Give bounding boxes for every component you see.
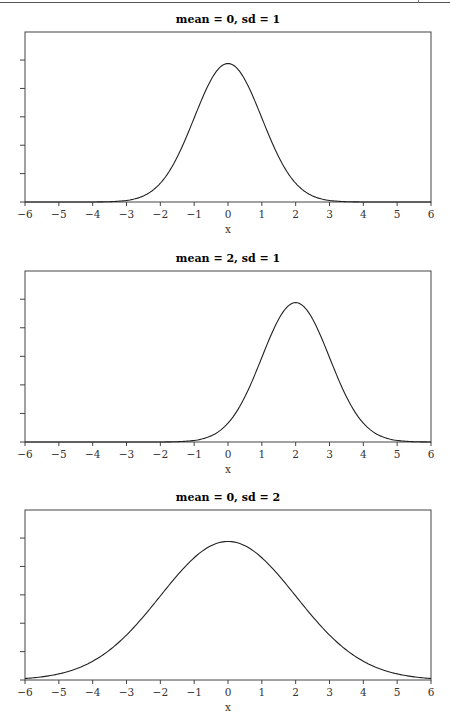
x-tick-label: −5 bbox=[51, 686, 66, 698]
x-tick-label: 4 bbox=[360, 686, 367, 698]
x-tick-label: −1 bbox=[186, 208, 201, 220]
x-tick-label: 6 bbox=[428, 208, 435, 220]
chart-title: mean = 2, sd = 1 bbox=[176, 252, 280, 265]
y-axis-ticks bbox=[20, 60, 25, 202]
plot-frame bbox=[25, 271, 431, 442]
x-tick-label: 6 bbox=[428, 686, 435, 698]
x-tick-label: 3 bbox=[326, 208, 333, 220]
y-axis-ticks bbox=[20, 299, 25, 442]
x-tick-label: 1 bbox=[258, 208, 265, 220]
plot-frame bbox=[25, 510, 431, 680]
chart-mean2-sd1: mean = 2, sd = 1 −6−5−4−3−2−10123456 x bbox=[0, 239, 450, 479]
x-tick-label: 0 bbox=[225, 448, 232, 460]
x-tick-label: 5 bbox=[394, 208, 401, 220]
y-axis-ticks bbox=[20, 538, 25, 680]
x-tick-label: −3 bbox=[119, 686, 134, 698]
x-tick-label: 1 bbox=[258, 686, 265, 698]
x-tick-label: −2 bbox=[153, 208, 168, 220]
x-tick-label: −5 bbox=[51, 448, 66, 460]
chart-title: mean = 0, sd = 1 bbox=[176, 13, 280, 26]
x-tick-label: −3 bbox=[119, 208, 134, 220]
chart-svg: mean = 2, sd = 1 −6−5−4−3−2−10123456 x bbox=[0, 239, 450, 479]
chart-title: mean = 0, sd = 2 bbox=[176, 491, 280, 504]
x-tick-label: −2 bbox=[153, 448, 168, 460]
x-tick-label: −3 bbox=[119, 448, 134, 460]
chart-svg: mean = 0, sd = 2 −6−5−4−3−2−10123456 x bbox=[0, 478, 450, 727]
x-tick-label: −4 bbox=[85, 448, 101, 460]
x-tick-label: 1 bbox=[258, 448, 265, 460]
x-tick-label: 2 bbox=[292, 448, 299, 460]
x-tick-label: −1 bbox=[186, 448, 201, 460]
density-curve bbox=[25, 303, 431, 442]
chart-svg: mean = 0, sd = 1 −6−5−4−3−2−10123456 x bbox=[0, 0, 450, 240]
x-axis-ticks: −6−5−4−3−2−10123456 bbox=[17, 202, 434, 220]
x-tick-label: −6 bbox=[17, 448, 33, 460]
chart-mean0-sd2: mean = 0, sd = 2 −6−5−4−3−2−10123456 x bbox=[0, 478, 450, 727]
x-tick-label: −6 bbox=[17, 208, 33, 220]
chart-mean0-sd1: mean = 0, sd = 1 −6−5−4−3−2−10123456 x bbox=[0, 0, 450, 240]
density-curve bbox=[25, 63, 431, 202]
x-tick-label: 6 bbox=[428, 448, 435, 460]
x-tick-label: 4 bbox=[360, 448, 367, 460]
x-axis-label: x bbox=[225, 701, 231, 713]
x-tick-label: 0 bbox=[225, 208, 232, 220]
x-tick-label: 0 bbox=[225, 686, 232, 698]
x-tick-label: −5 bbox=[51, 208, 66, 220]
x-axis-ticks: −6−5−4−3−2−10123456 bbox=[17, 680, 434, 698]
x-axis-label: x bbox=[225, 463, 231, 475]
x-tick-label: 2 bbox=[292, 686, 299, 698]
x-tick-label: 4 bbox=[360, 208, 367, 220]
x-tick-label: −4 bbox=[85, 208, 101, 220]
x-axis-label: x bbox=[225, 223, 231, 235]
density-curve bbox=[25, 541, 431, 678]
x-tick-label: −2 bbox=[153, 686, 168, 698]
x-tick-label: 5 bbox=[394, 686, 401, 698]
x-axis-ticks: −6−5−4−3−2−10123456 bbox=[17, 442, 434, 460]
x-tick-label: −1 bbox=[186, 686, 201, 698]
x-tick-label: 2 bbox=[292, 208, 299, 220]
x-tick-label: 5 bbox=[394, 448, 401, 460]
x-tick-label: −6 bbox=[17, 686, 33, 698]
x-tick-label: −4 bbox=[85, 686, 101, 698]
x-tick-label: 3 bbox=[326, 686, 333, 698]
x-tick-label: 3 bbox=[326, 448, 333, 460]
plot-frame bbox=[25, 32, 431, 202]
